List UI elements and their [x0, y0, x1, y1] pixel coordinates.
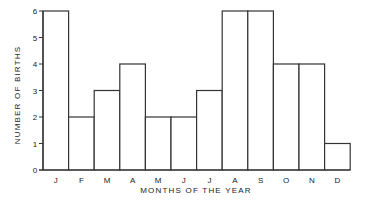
y-tick-label: 3 [33, 87, 38, 96]
x-tick-label: N [309, 176, 315, 185]
bar-5 [171, 117, 197, 170]
x-tick-label: O [283, 176, 289, 185]
bar-7 [222, 11, 248, 170]
bar-9 [273, 64, 299, 170]
x-tick-label: J [182, 176, 186, 185]
y-tick-label: 1 [33, 140, 38, 149]
y-tick-label: 4 [33, 60, 38, 69]
bar-2 [94, 91, 120, 171]
bar-4 [145, 117, 171, 170]
bar-3 [120, 64, 146, 170]
bar-1 [69, 117, 95, 170]
x-tick-label: J [54, 176, 58, 185]
x-tick-label: M [104, 176, 111, 185]
x-tick-label: J [207, 176, 211, 185]
x-tick-label: A [130, 176, 136, 185]
y-ticks-group: 0123456 [33, 7, 43, 175]
x-tick-label: F [79, 176, 84, 185]
x-tick-label: D [335, 176, 341, 185]
x-tick-label: A [232, 176, 238, 185]
y-axis-label: NUMBER OF BIRTHS [13, 46, 22, 145]
bar-10 [299, 64, 325, 170]
y-tick-label: 2 [33, 113, 38, 122]
bar-6 [197, 91, 223, 171]
x-ticks-group: JFMAMJJASOND [54, 176, 341, 185]
bar-11 [325, 144, 351, 171]
bar-8 [248, 11, 274, 170]
x-tick-label: S [258, 176, 263, 185]
histogram-chart: 0123456 JFMAMJJASOND NUMBER OF BIRTHS MO… [0, 0, 370, 201]
x-tick-label: M [155, 176, 162, 185]
x-axis-label: MONTHS OF THE YEAR [140, 186, 252, 195]
y-tick-label: 0 [33, 166, 38, 175]
y-tick-label: 5 [33, 34, 38, 43]
bar-0 [43, 11, 69, 170]
y-tick-label: 6 [33, 7, 38, 16]
bars-group [43, 11, 350, 170]
